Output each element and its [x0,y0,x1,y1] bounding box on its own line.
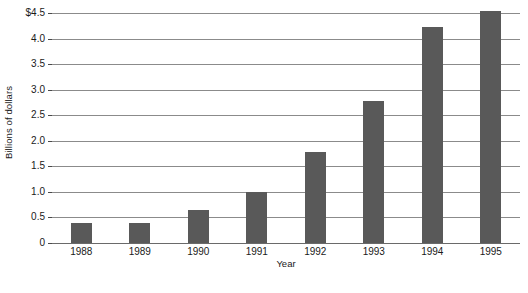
y-axis-tick-mark [48,90,52,91]
y-axis-tick-mark [48,192,52,193]
x-axis-tick-label: 1994 [421,247,443,257]
bar-1988 [71,223,92,243]
y-axis-tick-mark [48,243,52,244]
x-axis-title-label: Year [276,258,295,269]
y-axis-tick-label: $4.5 [26,8,45,18]
gridline [52,141,520,142]
x-axis-tick-label: 1995 [480,247,502,257]
gridline [52,90,520,91]
y-axis-tick-label: 0.5 [31,212,45,222]
y-axis-tick-label: 1.5 [31,161,45,171]
gridline [52,243,520,244]
x-axis-tick-label: 1992 [304,247,326,257]
y-axis-tick-label: 3.0 [31,85,45,95]
y-axis-tick-mark [48,115,52,116]
x-axis-tick-label: 1990 [187,247,209,257]
x-axis-tick-label: 1991 [246,247,268,257]
gridline [52,64,520,65]
y-axis-tick-mark [48,166,52,167]
bar-1995 [480,11,501,243]
gridline [52,166,520,167]
gridline [52,192,520,193]
gridline [52,115,520,116]
x-axis-title: Year [52,258,520,269]
y-axis-line [51,13,52,243]
y-axis-tick-label: 0 [39,238,45,248]
y-axis-tick-mark [48,64,52,65]
y-axis-title-label: Billions of dollars [4,86,15,159]
y-axis-tick-mark [48,141,52,142]
y-axis-tick-mark [48,39,52,40]
y-axis-tick-mark [48,13,52,14]
plot-area: 00.51.01.52.02.53.03.54.0$4.5 1988198919… [52,13,520,243]
y-axis-tick-label: 2.0 [31,136,45,146]
bar-1990 [188,210,209,243]
y-axis-tick-mark [48,217,52,218]
gridline [52,39,520,40]
bar-chart: Billions of dollars 00.51.01.52.02.53.03… [0,0,528,293]
x-axis-tick-label: 1989 [129,247,151,257]
gridline [52,217,520,218]
y-axis-tick-label: 2.5 [31,110,45,120]
gridline [52,13,520,14]
y-axis-tick-label: 4.0 [31,34,45,44]
y-axis-title: Billions of dollars [0,0,18,245]
y-axis-tick-label: 3.5 [31,59,45,69]
y-axis-tick-label: 1.0 [31,187,45,197]
bar-1993 [363,101,384,243]
x-axis-tick-label: 1988 [70,247,92,257]
bar-1992 [305,152,326,243]
bar-1994 [422,27,443,243]
x-axis-tick-label: 1993 [363,247,385,257]
bar-1989 [129,223,150,243]
bar-1991 [246,192,267,243]
